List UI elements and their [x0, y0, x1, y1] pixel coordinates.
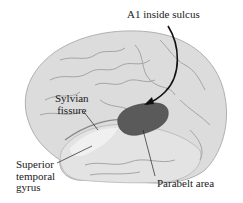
label-stg-line3: gyrus [16, 182, 55, 194]
label-superior-temporal-gyrus: Superior temporal gyrus [16, 159, 55, 194]
brain-diagram: A1 inside sulcus Sylvian fissure Superio… [0, 0, 243, 203]
label-stg-line1: Superior [16, 159, 55, 171]
label-parabelt-area: Parabelt area [157, 177, 214, 189]
label-sylvian-fissure: Sylvian fissure [55, 93, 89, 116]
label-sylvian-line1: Sylvian [55, 93, 89, 105]
label-a1-inside-sulcus: A1 inside sulcus [127, 8, 200, 20]
label-sylvian-line2: fissure [55, 105, 89, 117]
